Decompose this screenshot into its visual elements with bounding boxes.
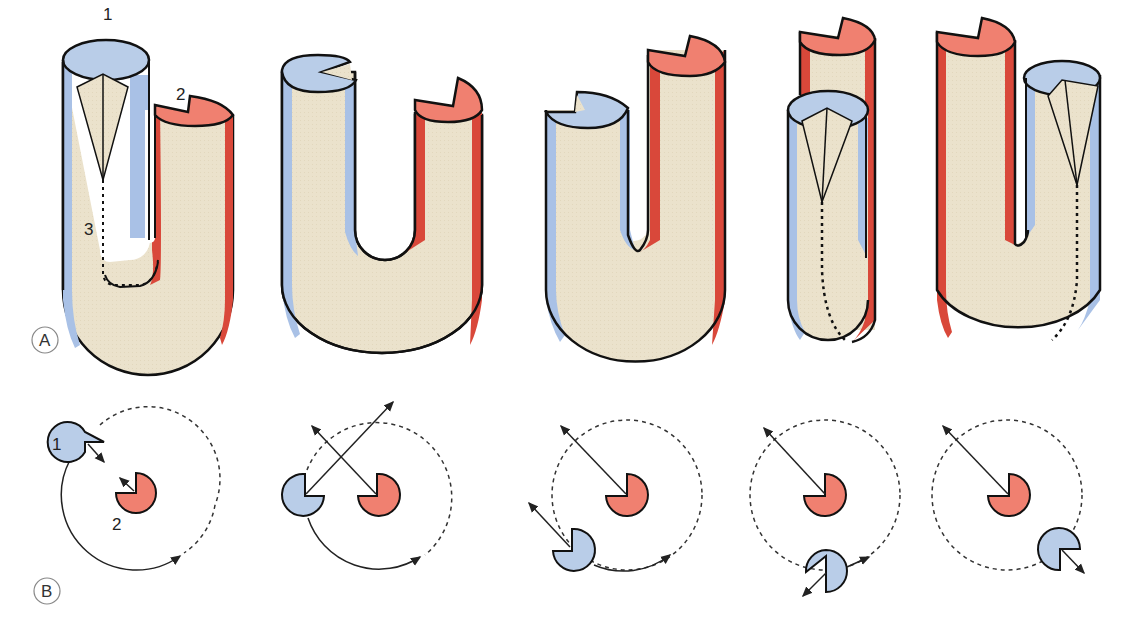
svg-text:B: B	[41, 582, 52, 601]
label-limb-2: 2	[176, 85, 185, 104]
panel-b: 1 2	[34, 402, 1084, 604]
label-limb-1: 1	[103, 5, 112, 24]
stage-4-tube	[788, 18, 875, 342]
rotation-stage-1: 1 2	[48, 407, 220, 570]
stage-5-tube	[937, 18, 1100, 340]
label-limb-2-b: 2	[112, 515, 121, 534]
stage-3-tube	[546, 36, 725, 362]
rotation-stage-2	[282, 402, 452, 569]
stage-2-tube	[282, 55, 482, 353]
label-seam-3: 3	[84, 220, 93, 239]
panel-b-label: B	[34, 578, 60, 604]
panel-a: 1 2 3	[32, 5, 1100, 375]
rotation-stage-5	[932, 420, 1084, 573]
svg-text:A: A	[39, 331, 51, 350]
panel-a-label: A	[32, 327, 58, 353]
stage-1-tube: 1 2 3	[63, 5, 233, 375]
figure-canvas: 1 2 3	[0, 0, 1125, 623]
rotation-stage-3	[529, 420, 702, 571]
rotation-stage-4	[750, 420, 900, 596]
label-limb-1-b: 1	[52, 435, 61, 454]
